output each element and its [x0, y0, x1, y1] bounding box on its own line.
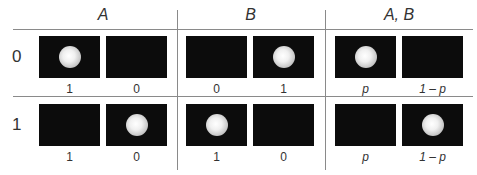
- box-value-label: 1 – p: [402, 82, 463, 96]
- screen-box: [186, 104, 247, 146]
- ball-icon: [206, 114, 228, 136]
- box-value-label: p: [335, 150, 396, 164]
- screen-box: [335, 36, 396, 78]
- box-value-label: 1: [39, 82, 100, 96]
- ball-icon: [355, 46, 377, 68]
- header-divider: [13, 29, 473, 30]
- screen-box: [253, 104, 314, 146]
- box-value-label: 0: [106, 82, 167, 96]
- row-header-1: 1: [12, 115, 21, 135]
- column-divider-2: [325, 10, 326, 170]
- row-divider: [13, 96, 473, 97]
- ball-icon: [126, 114, 148, 136]
- screen-box: [106, 104, 167, 146]
- box-value-label: 1: [253, 82, 314, 96]
- ball-icon: [273, 46, 295, 68]
- box-value-label: 0: [253, 150, 314, 164]
- box-value-label: 1: [39, 150, 100, 164]
- ball-icon: [59, 46, 81, 68]
- screen-box: [39, 36, 100, 78]
- column-divider-1: [177, 10, 178, 170]
- screen-box: [402, 36, 463, 78]
- box-value-label: 0: [106, 150, 167, 164]
- row-header-0: 0: [12, 47, 21, 67]
- screen-box: [402, 104, 463, 146]
- screen-box: [253, 36, 314, 78]
- box-value-label: 1: [186, 150, 247, 164]
- column-header-ab: A, B: [335, 6, 463, 24]
- column-header-a: A: [39, 6, 167, 24]
- ball-icon: [422, 114, 444, 136]
- screen-box: [335, 104, 396, 146]
- box-value-label: 1 – p: [402, 150, 463, 164]
- screen-box: [106, 36, 167, 78]
- box-value-label: 0: [186, 82, 247, 96]
- screen-box: [186, 36, 247, 78]
- box-value-label: p: [335, 82, 396, 96]
- column-header-b: B: [186, 6, 315, 24]
- screen-box: [39, 104, 100, 146]
